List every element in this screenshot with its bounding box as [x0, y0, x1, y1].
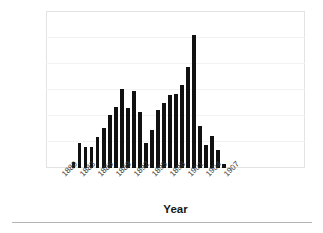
- bar-chart-figure: Number (million) 18801883188618891892189…: [0, 0, 323, 233]
- bar-series: [60, 12, 232, 168]
- bar: [96, 137, 99, 168]
- bar: [174, 94, 177, 168]
- bar: [186, 67, 189, 168]
- bar: [132, 91, 135, 168]
- bar: [156, 110, 159, 169]
- bar: [120, 89, 123, 168]
- bar: [168, 95, 171, 168]
- bar: [162, 103, 165, 168]
- bar: [138, 112, 141, 168]
- x-axis-tick-labels: 1880188318861889189218951898190119041907: [46, 170, 305, 196]
- bar: [114, 107, 117, 168]
- plot-area: [46, 11, 305, 168]
- footer-divider: [12, 222, 312, 223]
- bar: [150, 130, 153, 168]
- bar: [180, 85, 183, 168]
- bar: [192, 35, 195, 168]
- x-axis-title: Year: [46, 203, 305, 215]
